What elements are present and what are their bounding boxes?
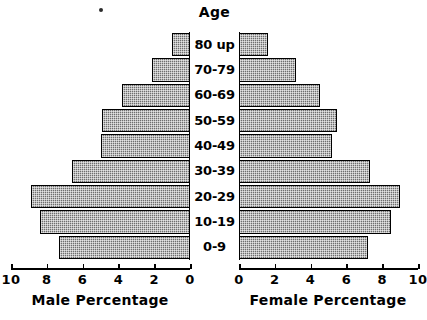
tick-label-left-4: 4 <box>114 272 123 287</box>
bar-right-40-49 <box>239 134 332 157</box>
bar-right-30-39 <box>239 160 370 183</box>
age-label-50-59: 50-59 <box>190 113 239 128</box>
tick-right-2 <box>275 264 277 269</box>
bar-row <box>239 57 418 82</box>
tick-label-right-0: 0 <box>234 272 243 287</box>
bar-right-60-69 <box>239 84 320 107</box>
bar-right-70-79 <box>239 58 296 81</box>
tick-label-right-4: 4 <box>306 272 315 287</box>
age-label-20-29: 20-29 <box>190 189 239 204</box>
bar-row <box>239 32 418 57</box>
bar-row <box>11 159 190 184</box>
bar-row <box>239 108 418 133</box>
tick-label-left-2: 2 <box>149 272 158 287</box>
male-bars-panel <box>11 32 190 260</box>
bar-row <box>239 209 418 234</box>
tick-label-left-6: 6 <box>78 272 87 287</box>
bar-row <box>11 133 190 158</box>
age-label-80-up: 80 up <box>190 37 239 52</box>
tick-right-4 <box>311 264 313 269</box>
bar-row <box>11 108 190 133</box>
bar-left-40-49 <box>101 134 191 157</box>
bar-right-50-59 <box>239 109 337 132</box>
bar-left-0-9 <box>59 236 190 259</box>
tick-label-left-10: 10 <box>2 272 21 287</box>
age-label-40-49: 40-49 <box>190 138 239 153</box>
tick-left-10 <box>11 264 13 269</box>
tick-left-6 <box>83 264 85 269</box>
female-x-axis <box>239 268 418 270</box>
scan-speck-artifact <box>99 8 103 12</box>
tick-label-left-8: 8 <box>42 272 51 287</box>
tick-right-0 <box>239 264 241 269</box>
tick-label-right-8: 8 <box>377 272 386 287</box>
bar-row <box>239 83 418 108</box>
bar-row <box>11 235 190 260</box>
bar-row <box>239 133 418 158</box>
bar-row <box>11 83 190 108</box>
tick-label-left-0: 0 <box>185 272 194 287</box>
bar-row <box>11 209 190 234</box>
tick-label-right-2: 2 <box>270 272 279 287</box>
tick-right-6 <box>346 264 348 269</box>
age-axis-title: Age <box>190 4 239 20</box>
bar-row <box>11 57 190 82</box>
bar-row <box>239 235 418 260</box>
female-axis-caption: Female Percentage <box>250 292 407 308</box>
bar-right-10-19 <box>239 210 391 233</box>
bar-right-80-up <box>239 33 268 56</box>
tick-label-right-10: 10 <box>409 272 427 287</box>
bar-row <box>239 159 418 184</box>
tick-label-right-6: 6 <box>342 272 351 287</box>
bar-left-30-39 <box>72 160 190 183</box>
bar-row <box>239 184 418 209</box>
bar-left-50-59 <box>102 109 190 132</box>
bar-row <box>11 184 190 209</box>
bar-left-80-up <box>172 33 190 56</box>
bar-row <box>11 32 190 57</box>
bar-left-20-29 <box>31 185 190 208</box>
tick-left-8 <box>47 264 49 269</box>
age-label-70-79: 70-79 <box>190 62 239 77</box>
age-label-30-39: 30-39 <box>190 163 239 178</box>
tick-right-10 <box>418 264 420 269</box>
tick-left-4 <box>118 264 120 269</box>
tick-left-0 <box>190 264 192 269</box>
bar-left-60-69 <box>122 84 190 107</box>
age-label-0-9: 0-9 <box>190 239 239 254</box>
female-baseline-axis <box>239 32 241 260</box>
tick-right-8 <box>382 264 384 269</box>
bar-left-70-79 <box>152 58 190 81</box>
male-x-axis <box>11 268 190 270</box>
bar-right-0-9 <box>239 236 368 259</box>
female-bars-panel <box>239 32 418 260</box>
male-axis-caption: Male Percentage <box>31 292 168 308</box>
tick-left-2 <box>154 264 156 269</box>
age-label-10-19: 10-19 <box>190 214 239 229</box>
bar-left-10-19 <box>40 210 190 233</box>
bar-right-20-29 <box>239 185 400 208</box>
age-label-60-69: 60-69 <box>190 87 239 102</box>
